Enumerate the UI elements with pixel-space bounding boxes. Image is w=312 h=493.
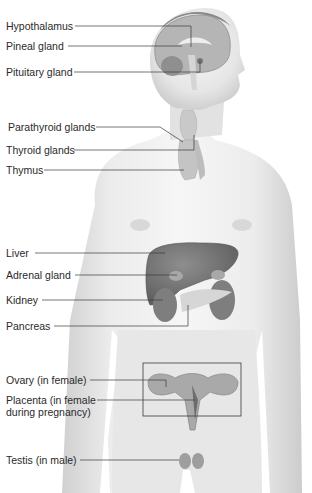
label-pineal-gland: Pineal gland [6,40,64,52]
testis-left [179,453,191,469]
label-liver: Liver [6,247,29,259]
label-thymus: Thymus [6,164,43,176]
label-ovary: Ovary (in female) [6,374,87,386]
label-adrenal-gland: Adrenal gland [6,269,71,281]
kidney-left [153,288,177,322]
label-pituitary-gland: Pituitary gland [6,66,73,78]
label-thyroid-glands: Thyroid glands [6,144,75,156]
label-hypothalamus: Hypothalamus [6,20,73,32]
label-placenta-line2: during pregnancy) [6,406,91,418]
label-parathyroid-glands: Parathyroid glands [8,121,96,133]
endocrine-diagram: Hypothalamus Pineal gland Pituitary glan… [0,0,312,493]
label-testis: Testis (in male) [6,454,77,466]
label-pancreas: Pancreas [6,320,50,332]
label-placenta-line1: Placenta (in female [6,394,96,406]
testis-right [192,453,204,469]
label-kidney: Kidney [6,294,38,306]
